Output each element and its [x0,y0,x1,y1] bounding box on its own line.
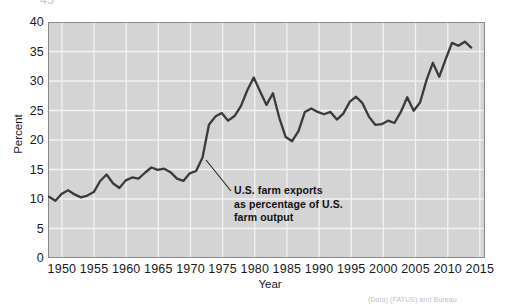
y-tick-10: 10 [4,192,44,206]
y-tick-40: 40 [4,15,44,29]
y-tick-5: 5 [4,222,44,236]
annotation-line-3: farm output [234,211,343,225]
data-series-line [49,42,471,201]
annotation-line-1: U.S. farm exports [234,184,343,198]
annotation-line-2: as percentage of U.S. [234,198,343,212]
y-tick-20: 20 [4,133,44,147]
y-tick-25: 25 [4,104,44,118]
chart-canvas [0,0,520,304]
annotation-leader-line [206,160,231,191]
x-tick-2015: 2015 [457,262,503,276]
y-axis-label: Percent [12,94,24,174]
series-annotation: U.S. farm exports as percentage of U.S. … [234,184,343,225]
chart-figure: 45 [0,0,520,304]
source-note: (Data) (FATUS) and Bureau [368,296,457,303]
y-tick-30: 30 [4,74,44,88]
x-axis-label: Year [240,278,300,290]
y-tick-15: 15 [4,163,44,177]
y-tick-35: 35 [4,45,44,59]
